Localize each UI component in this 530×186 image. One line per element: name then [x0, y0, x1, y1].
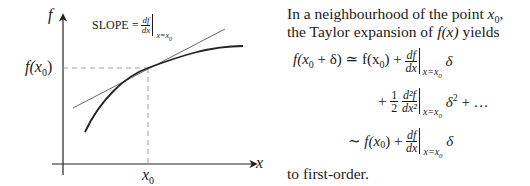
fx0-tick-label: f(x0) — [25, 58, 52, 78]
taylor-row-2: + 12 d²fdx²x=x0 δ2 + … — [378, 88, 489, 114]
x0-tick-label: x0 — [142, 166, 154, 186]
taylor-row-3: ∼ f(x0) + dfdxx=x0 δ — [348, 128, 453, 154]
y-axis-label: f — [48, 6, 52, 24]
closing-text: to first-order. — [287, 166, 369, 182]
x-axis-label: x — [256, 154, 263, 172]
slope-annotation: SLOPE = dfdxx=x0 — [92, 14, 153, 36]
intro-line-2: the Taylor expansion of f(x) yields — [287, 24, 500, 40]
taylor-row-1: f(x0 + δ) ≃ f(x0) + dfdxx=x0 δ — [293, 48, 452, 74]
